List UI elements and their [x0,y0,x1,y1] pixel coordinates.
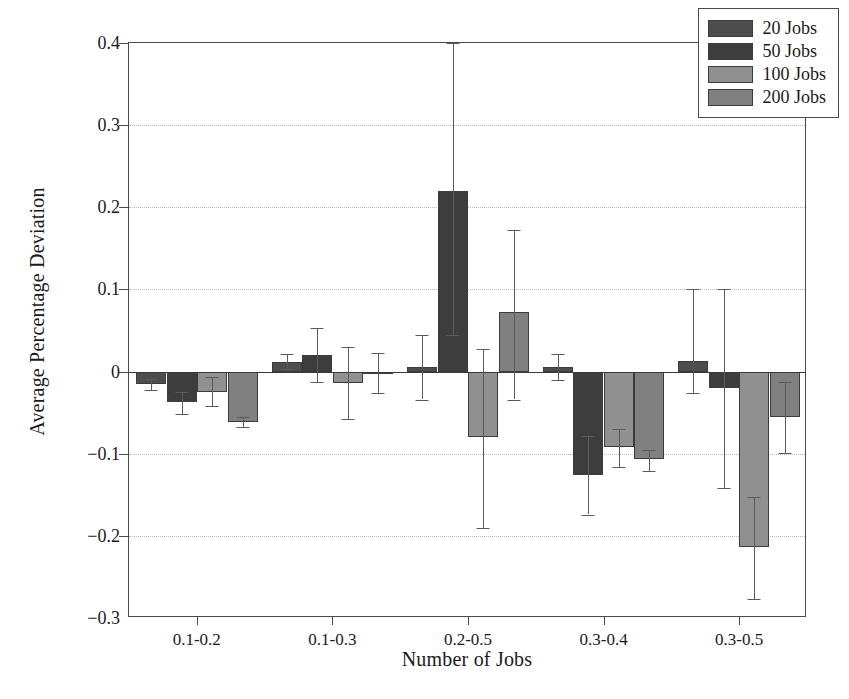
x-axis-tick-label: 0.3-0.4 [580,630,628,650]
y-axis-tick [119,454,129,455]
x-axis-tick [332,616,333,625]
error-bar [212,377,213,406]
error-bar-cap [175,392,188,393]
y-axis-tick [119,372,129,373]
error-bar-cap [341,347,354,348]
x-axis-tick [739,616,740,625]
error-bar-cap [612,467,625,468]
y-axis-title: Average Percentage Deviation [26,112,49,512]
error-bar [514,230,515,399]
error-bar [151,379,152,390]
y-axis-tick-label: −0.2 [87,525,120,546]
bar [634,372,664,460]
error-bar [453,43,454,335]
error-bar-cap [582,515,595,516]
gridline [129,125,805,126]
x-axis-tick [468,616,469,625]
error-bar-cap [311,328,324,329]
legend-swatch [708,20,753,37]
error-bar [693,289,694,393]
y-axis-tick-label: −0.3 [87,608,120,629]
zero-baseline [129,372,805,373]
error-bar [317,328,318,382]
error-bar-cap [612,429,625,430]
error-bar-cap [748,497,761,498]
x-axis-tick [604,616,605,625]
error-bar-cap [643,450,656,451]
error-bar-cap [717,289,730,290]
error-bar-cap [687,393,700,394]
x-axis-tick-label: 0.1-0.3 [308,630,356,650]
error-bar [619,429,620,467]
x-axis-tick [197,616,198,625]
error-bar [785,382,786,453]
y-axis-tick [119,289,129,290]
legend-label: 50 Jobs [762,41,817,62]
error-bar [649,450,650,471]
legend-swatch [708,43,753,60]
plot-area: −0.3−0.2−0.100.10.20.30.40.1-0.20.1-0.30… [128,42,806,617]
error-bar-cap [446,43,459,44]
error-bar [483,349,484,527]
error-bar-cap [551,380,564,381]
error-bar [754,497,755,599]
legend-swatch [708,66,753,83]
x-axis-title: Number of Jobs [128,648,806,671]
x-axis-tick-label: 0.2-0.5 [444,630,492,650]
error-bar-cap [145,390,158,391]
error-bar-cap [236,417,249,418]
y-axis-tick-label: 0.4 [98,33,121,54]
y-axis-tick [119,125,129,126]
error-bar-cap [778,382,791,383]
error-bar [588,436,589,514]
error-bar-cap [582,436,595,437]
error-bar-cap [280,369,293,370]
error-bar [422,335,423,399]
error-bar-cap [687,289,700,290]
error-bar-cap [446,335,459,336]
error-bar [243,417,244,428]
bar-chart-figure: Average Percentage Deviation Number of J… [0,0,849,699]
y-axis-tick [119,536,129,537]
chart-legend: 20 Jobs50 Jobs100 Jobs200 Jobs [698,8,839,118]
legend-item: 50 Jobs [708,40,826,63]
y-axis-tick-label: 0.3 [98,115,121,136]
legend-item: 200 Jobs [708,86,826,109]
y-axis-tick [119,43,129,44]
error-bar-cap [416,400,429,401]
error-bar-cap [311,382,324,383]
gridline [129,536,805,537]
plot-canvas: −0.3−0.2−0.100.10.20.30.40.1-0.20.1-0.30… [129,43,805,616]
error-bar-cap [507,400,520,401]
y-axis-tick-label: 0.2 [98,197,121,218]
error-bar-cap [507,230,520,231]
legend-item: 20 Jobs [708,17,826,40]
error-bar-cap [477,528,490,529]
legend-label: 100 Jobs [762,64,826,85]
y-axis-tick-label: 0 [111,361,120,382]
legend-swatch [708,89,753,106]
y-axis-tick-label: 0.1 [98,279,121,300]
error-bar-cap [748,599,761,600]
error-bar-cap [175,414,188,415]
y-axis-tick-label: −0.1 [87,443,120,464]
legend-item: 100 Jobs [708,63,826,86]
error-bar [287,354,288,370]
error-bar-cap [551,354,564,355]
error-bar-cap [206,377,219,378]
error-bar-cap [778,453,791,454]
error-bar-cap [372,393,385,394]
legend-label: 20 Jobs [762,18,817,39]
error-bar-cap [643,471,656,472]
error-bar [724,289,725,488]
x-axis-tick-label: 0.1-0.2 [173,630,221,650]
error-bar-cap [206,406,219,407]
error-bar [348,347,349,419]
gridline [129,454,805,455]
error-bar-cap [236,427,249,428]
error-bar-cap [341,419,354,420]
x-axis-tick-label: 0.3-0.5 [715,630,763,650]
error-bar [378,353,379,393]
legend-label: 200 Jobs [762,87,826,108]
error-bar-cap [477,349,490,350]
